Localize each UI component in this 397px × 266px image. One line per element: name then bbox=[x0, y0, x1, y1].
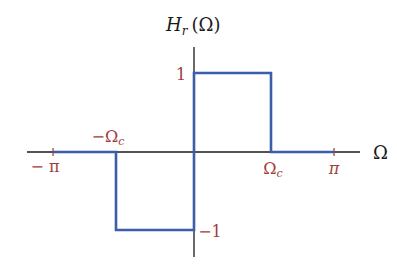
x-axis-title: Ω bbox=[373, 142, 388, 163]
x-tick-label-neg-pi: − π bbox=[30, 157, 59, 176]
frequency-response-diagram: Hr(Ω) 1 −1 − π −Ωc Ωc π Ω bbox=[0, 0, 397, 266]
x-tick-label-neg-omega-c: −Ωc bbox=[92, 127, 125, 148]
y-axis-title: Hr(Ω) bbox=[165, 14, 220, 38]
x-tick-label-omega-c: Ωc bbox=[263, 159, 282, 180]
y-tick-label-1: 1 bbox=[176, 65, 186, 84]
y-tick-label-neg1: −1 bbox=[198, 222, 222, 241]
signal-curve bbox=[53, 73, 334, 230]
x-tick-label-pi: π bbox=[328, 159, 340, 178]
